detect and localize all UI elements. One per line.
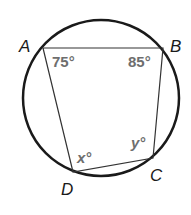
angle-a-label: 75° — [52, 53, 75, 70]
angle-c-label: y° — [130, 134, 146, 151]
vertex-label-c: C — [150, 166, 163, 185]
diagram-canvas: A B C D 75° 85° x° y° — [0, 0, 191, 215]
circle — [23, 20, 179, 176]
angle-d-label: x° — [76, 149, 92, 166]
vertex-label-a: A — [18, 37, 30, 56]
vertex-label-d: D — [61, 180, 73, 199]
vertex-label-b: B — [170, 37, 181, 56]
angle-b-label: 85° — [128, 53, 151, 70]
